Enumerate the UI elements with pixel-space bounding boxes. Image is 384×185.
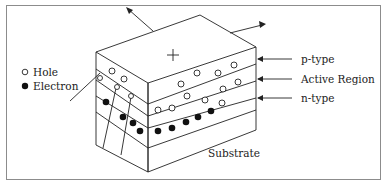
led-layer-diagram: Hole Electron p-type Active Region n-typ… [0, 0, 384, 185]
legend-electron-label: Electron [33, 80, 79, 92]
arrowhead-icon [257, 76, 263, 82]
hole-legend-icon [22, 69, 28, 75]
arrowhead-icon [259, 21, 266, 28]
arrowhead-icon [257, 56, 263, 62]
right-layer-line [148, 110, 256, 148]
active-region-label: Active Region [300, 73, 375, 85]
emission-arrow-right [230, 25, 262, 33]
legend: Hole Electron [22, 66, 79, 92]
right-layer-line [148, 98, 256, 128]
emission-arrow-left [128, 9, 153, 31]
substrate-label: Substrate [208, 147, 260, 159]
arrowhead-icon [257, 95, 263, 101]
p-type-label: p-type [301, 53, 334, 65]
electron-legend-icon [22, 83, 28, 89]
legend-hole-label: Hole [33, 66, 58, 78]
n-type-label: n-type [301, 92, 334, 104]
electrons [103, 99, 215, 135]
hole-leader-line [121, 97, 131, 155]
left-layer-line [96, 80, 148, 116]
